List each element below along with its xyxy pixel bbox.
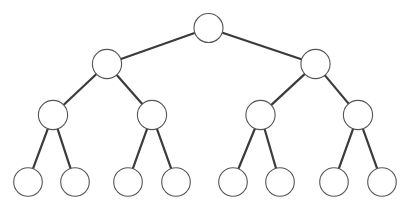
tree-edge-n1-n3	[63, 74, 97, 106]
tree-node-circle-n11[interactable]	[219, 168, 248, 197]
tree-edge-n4-n10	[157, 128, 172, 169]
tree-node-circle-n6[interactable]	[343, 100, 372, 129]
tree-node-circle-n2[interactable]	[301, 49, 330, 78]
tree-node-circle-n12[interactable]	[266, 168, 295, 197]
tree-edge-n3-n7	[33, 128, 48, 169]
node-layer	[14, 14, 397, 197]
tree-node-n9[interactable]	[114, 168, 143, 197]
tree-node-n6[interactable]	[343, 100, 372, 129]
tree-node-n1[interactable]	[92, 49, 121, 78]
tree-canvas	[0, 0, 406, 210]
tree-edge-n0-n2	[222, 32, 302, 59]
tree-node-n3[interactable]	[38, 100, 67, 129]
tree-edge-n4-n9	[133, 128, 148, 169]
tree-node-circle-n8[interactable]	[61, 168, 90, 197]
tree-node-n4[interactable]	[137, 100, 166, 129]
tree-node-circle-n1[interactable]	[92, 49, 121, 78]
tree-node-circle-n14[interactable]	[368, 168, 397, 197]
tree-node-circle-n10[interactable]	[162, 168, 191, 197]
tree-node-n14[interactable]	[368, 168, 397, 197]
tree-node-circle-n3[interactable]	[38, 100, 67, 129]
tree-node-n0[interactable]	[194, 14, 223, 43]
tree-edge-n5-n12	[264, 129, 276, 169]
tree-node-n2[interactable]	[301, 49, 330, 78]
tree-edge-n6-n13	[339, 128, 354, 169]
tree-node-circle-n5[interactable]	[246, 100, 275, 129]
tree-edge-n2-n5	[271, 74, 305, 106]
binary-tree-diagram	[0, 0, 406, 210]
tree-edge-n5-n11	[238, 128, 255, 169]
tree-edge-n3-n8	[57, 128, 70, 168]
tree-node-n12[interactable]	[266, 168, 295, 197]
tree-node-circle-n7[interactable]	[14, 168, 43, 197]
tree-node-circle-n0[interactable]	[194, 14, 223, 43]
tree-edge-n2-n6	[325, 75, 349, 104]
tree-node-n5[interactable]	[246, 100, 275, 129]
tree-node-n7[interactable]	[14, 168, 43, 197]
tree-node-n10[interactable]	[162, 168, 191, 197]
tree-node-n8[interactable]	[61, 168, 90, 197]
tree-edge-n6-n14	[363, 128, 378, 169]
tree-node-circle-n4[interactable]	[137, 100, 166, 129]
tree-node-n11[interactable]	[219, 168, 248, 197]
tree-node-n13[interactable]	[320, 168, 349, 197]
tree-edge-n0-n1	[120, 33, 195, 60]
tree-edge-n1-n4	[116, 75, 142, 105]
tree-node-circle-n9[interactable]	[114, 168, 143, 197]
tree-node-circle-n13[interactable]	[320, 168, 349, 197]
